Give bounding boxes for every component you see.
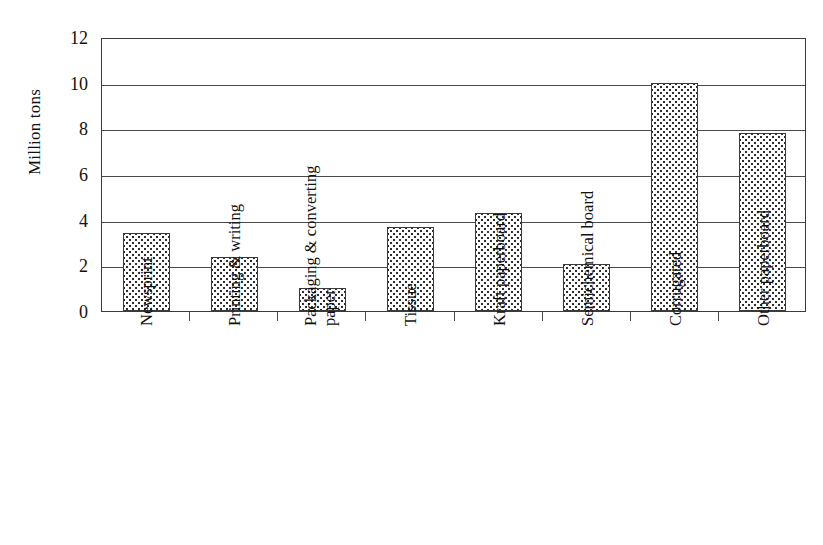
bar-chart: Million tons 121086420 NewsprintPrinting… bbox=[0, 0, 823, 545]
x-tick bbox=[454, 312, 455, 321]
x-axis-category-label-text: Kraft paperboard bbox=[490, 213, 509, 326]
x-tick bbox=[718, 312, 719, 321]
y-tick-label: 12 bbox=[54, 29, 88, 47]
x-tick bbox=[277, 312, 278, 321]
x-axis-category-label-text: Packaging & converting paper bbox=[301, 151, 339, 326]
y-tick-label: 2 bbox=[54, 257, 88, 275]
bar-series bbox=[102, 39, 805, 311]
plot-area bbox=[101, 38, 806, 312]
y-tick-label: 4 bbox=[54, 212, 88, 230]
x-axis-category-label-text: Newsprint bbox=[137, 257, 156, 326]
x-tick bbox=[630, 312, 631, 321]
x-tick bbox=[189, 312, 190, 321]
y-tick-label: 0 bbox=[54, 303, 88, 321]
x-axis-category-label-text: Tissue bbox=[401, 284, 420, 327]
x-axis-category-label-text: Corrugated bbox=[666, 252, 685, 326]
x-tick bbox=[542, 312, 543, 321]
y-tick-label: 8 bbox=[54, 120, 88, 138]
x-axis-category-label-text: Printing & writing bbox=[225, 204, 244, 326]
y-tick-label: 6 bbox=[54, 166, 88, 184]
x-tick bbox=[365, 312, 366, 321]
y-tick-label: 10 bbox=[54, 75, 88, 93]
x-axis-category-label-text: Other paperboard bbox=[754, 210, 773, 326]
y-axis-title: Million tons bbox=[25, 52, 45, 212]
x-axis-category-label-text: Semichemical board bbox=[578, 191, 597, 326]
